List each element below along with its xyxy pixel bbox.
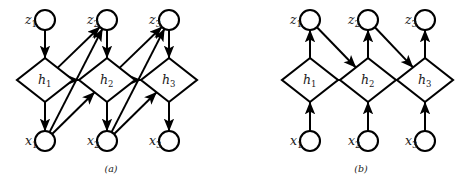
node-a-z2: z2 <box>86 10 117 30</box>
panel-caption-a: (a) <box>104 163 117 174</box>
node-sub-b-h3: 3 <box>426 79 431 89</box>
node-label-a-z1: z1 <box>24 12 37 29</box>
node-label-a-z3: z3 <box>148 12 161 29</box>
node-sub-a-x2: 2 <box>94 140 99 150</box>
observed-node-z3 <box>159 10 179 30</box>
node-sub-a-z2: 2 <box>94 19 99 29</box>
node-a-x2: x2 <box>87 131 117 151</box>
node-b-z2: z2 <box>347 10 378 30</box>
node-b-h1: h1 <box>282 58 338 102</box>
observed-node-x3 <box>415 131 435 151</box>
panel-caption-b: (b) <box>354 163 368 174</box>
node-sub-b-x2: 2 <box>355 140 360 150</box>
node-label-a-z2: z2 <box>86 12 99 29</box>
node-b-x3: x3 <box>405 131 435 151</box>
node-sub-a-x1: 1 <box>32 140 37 150</box>
node-sub-a-x3: 3 <box>156 140 161 150</box>
figure-container: z1z2z3h1h2h3x1x2x3(a)z1z2z3h1h2h3x1x2x3(… <box>0 0 456 186</box>
node-label-b-z2: z2 <box>347 12 360 29</box>
node-sub-a-z3: 3 <box>156 19 161 29</box>
node-sub-a-h2: 2 <box>108 79 113 89</box>
observed-node-x2 <box>97 131 117 151</box>
node-sub-b-z1: 1 <box>297 19 302 29</box>
node-b-z3: z3 <box>404 10 435 30</box>
observed-node-x1 <box>35 131 55 151</box>
observed-node-x3 <box>159 131 179 151</box>
node-b-h3: h3 <box>397 58 453 102</box>
node-a-z1: z1 <box>24 10 55 30</box>
node-sub-a-z1: 1 <box>32 19 37 29</box>
node-a-h3: h3 <box>141 58 197 102</box>
node-sub-b-h2: 2 <box>369 79 374 89</box>
node-b-z1: z1 <box>289 10 320 30</box>
node-label-b-z1: z1 <box>289 12 302 29</box>
observed-node-z1 <box>300 10 320 30</box>
observed-node-z2 <box>97 10 117 30</box>
observed-node-z2 <box>358 10 378 30</box>
node-label-b-z3: z3 <box>404 12 417 29</box>
node-a-x1: x1 <box>25 131 55 151</box>
node-sub-b-z3: 3 <box>412 19 417 29</box>
observed-node-x2 <box>358 131 378 151</box>
edge-b-z1-to-h2 <box>317 27 356 67</box>
edge-b-z2-to-h3 <box>375 27 413 67</box>
observed-node-x1 <box>300 131 320 151</box>
node-sub-a-h3: 3 <box>170 79 175 89</box>
node-a-x3: x3 <box>149 131 179 151</box>
node-sub-b-h1: 1 <box>311 79 316 89</box>
node-sub-b-x1: 1 <box>297 140 302 150</box>
node-a-h1: h1 <box>17 58 73 102</box>
node-sub-a-h1: 1 <box>46 79 51 89</box>
observed-node-z3 <box>415 10 435 30</box>
node-a-h2: h2 <box>79 58 135 102</box>
node-sub-b-z2: 2 <box>355 19 360 29</box>
node-b-x1: x1 <box>290 131 320 151</box>
node-b-x2: x2 <box>348 131 378 151</box>
panel-b: z1z2z3h1h2h3x1x2x3(b) <box>282 10 453 174</box>
node-a-z3: z3 <box>148 10 179 30</box>
graphical-model-figure: z1z2z3h1h2h3x1x2x3(a)z1z2z3h1h2h3x1x2x3(… <box>0 0 456 186</box>
panel-a: z1z2z3h1h2h3x1x2x3(a) <box>17 10 197 174</box>
node-b-h2: h2 <box>340 58 396 102</box>
node-sub-b-x3: 3 <box>412 140 417 150</box>
observed-node-z1 <box>35 10 55 30</box>
